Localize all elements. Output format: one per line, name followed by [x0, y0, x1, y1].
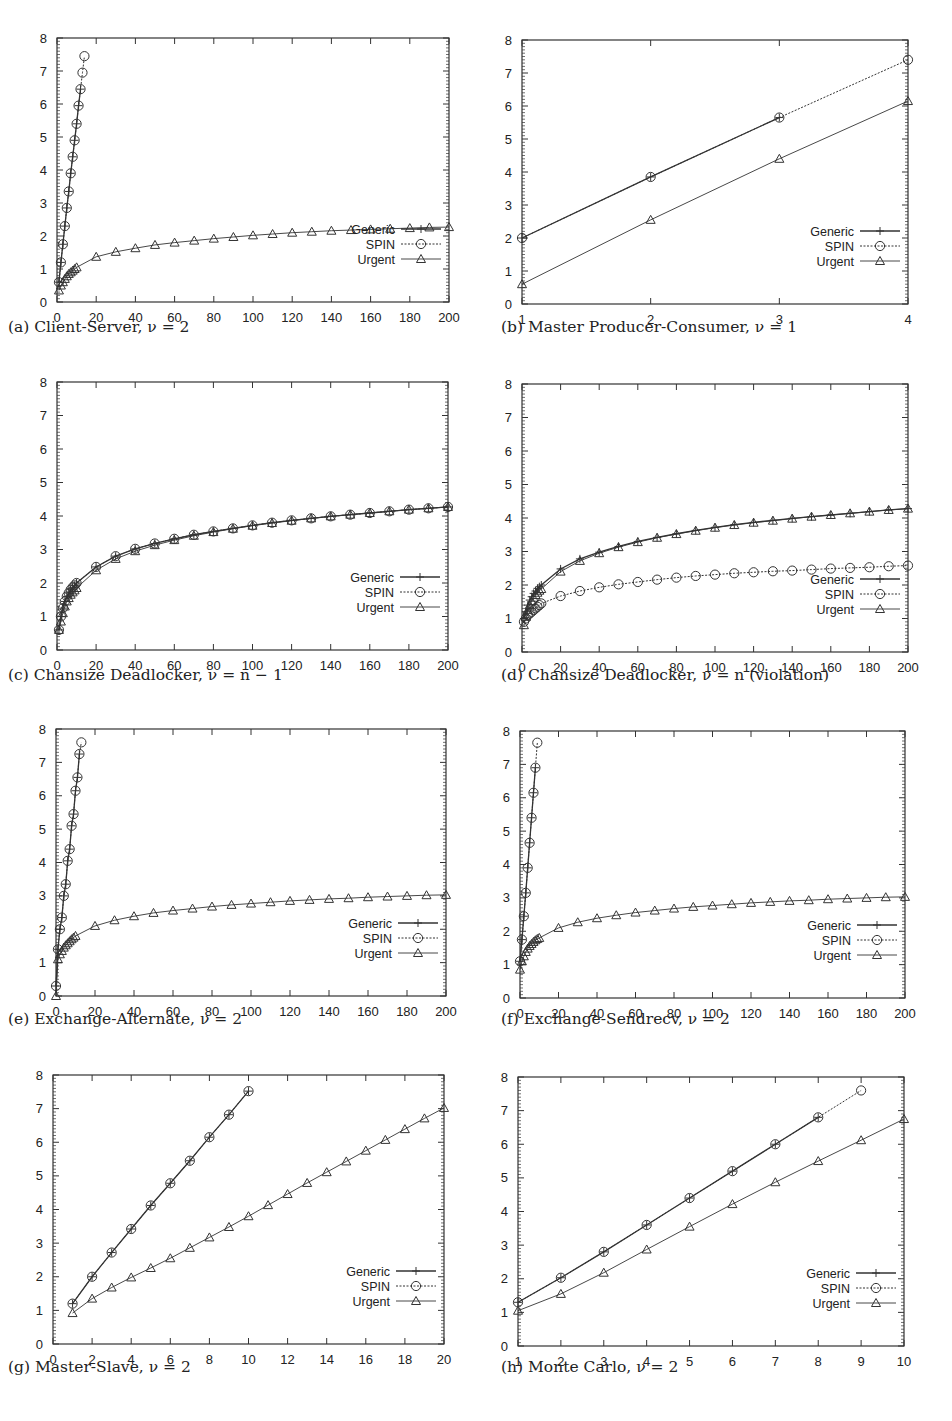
y-tick-label: 1: [40, 609, 47, 624]
y-tick-label: 8: [505, 377, 512, 392]
x-tick-label: 200: [894, 1006, 916, 1021]
chart-panel-f: 012345678020406080100120140160180200Gene…: [476, 720, 952, 1075]
y-tick-label: 6: [503, 790, 510, 805]
legend-label-urgent: Urgent: [357, 253, 395, 267]
x-tick-label: 120: [279, 1004, 301, 1019]
y-tick-label: 4: [40, 163, 47, 178]
legend: GenericSPINUrgent: [350, 571, 440, 615]
y-axis: 012345678: [505, 33, 908, 312]
legend-label-generic: Generic: [810, 225, 854, 239]
x-tick-label: 180: [859, 660, 881, 675]
y-axis: 012345678: [40, 375, 448, 658]
chart-panel-b: 0123456781234GenericSPINUrgent(b) Master…: [476, 0, 952, 355]
y-tick-label: 3: [501, 1238, 508, 1253]
legend: GenericSPINUrgent: [810, 225, 900, 269]
y-tick-label: 3: [505, 544, 512, 559]
x-tick-label: 180: [856, 1006, 878, 1021]
y-tick-label: 1: [39, 955, 46, 970]
chart-panel-c: 012345678020406080100120140160180200Gene…: [0, 360, 476, 715]
y-tick-label: 1: [505, 611, 512, 626]
legend-label-spin: SPIN: [825, 240, 854, 254]
y-tick-label: 5: [40, 130, 47, 145]
y-axis: 012345678: [40, 31, 449, 310]
y-axis: 012345678: [501, 1070, 904, 1354]
y-tick-label: 8: [501, 1070, 508, 1085]
x-tick-label: 5: [686, 1354, 693, 1369]
chart-panel-e: 012345678020406080100120140160180200Gene…: [0, 720, 476, 1075]
x-tick-label: 16: [359, 1352, 373, 1367]
legend-label-spin: SPIN: [361, 1280, 390, 1294]
legend-label-urgent: Urgent: [356, 601, 394, 615]
x-tick-label: 120: [740, 1006, 762, 1021]
x-tick-label: 140: [779, 1006, 801, 1021]
legend: GenericSPINUrgent: [810, 573, 900, 617]
y-tick-label: 8: [503, 724, 510, 739]
y-tick-label: 8: [40, 375, 47, 390]
legend: GenericSPINUrgent: [346, 1265, 436, 1309]
x-tick-label: 160: [360, 310, 382, 325]
y-tick-label: 3: [40, 542, 47, 557]
figure-caption: (h) Monte Carlo, ν = 2: [501, 1358, 678, 1376]
y-tick-label: 3: [39, 888, 46, 903]
figure-caption: (a) Client-Server, ν = 2: [8, 318, 189, 336]
figure-caption: (f) Exchange-Sendrecv, ν = 2: [501, 1010, 730, 1028]
figure-caption: (e) Exchange-Alternate, ν = 2: [8, 1010, 242, 1028]
series-urgent: [68, 1103, 448, 1316]
x-tick-label: 100: [240, 1004, 262, 1019]
y-tick-label: 8: [39, 722, 46, 737]
legend-label-spin: SPIN: [822, 934, 851, 948]
x-axis: 020406080100120140160180200: [516, 731, 915, 1021]
legend-label-spin: SPIN: [365, 586, 394, 600]
y-tick-label: 6: [505, 99, 512, 114]
y-axis: 012345678: [39, 722, 446, 1004]
series-spin: [517, 55, 912, 242]
y-tick-label: 5: [501, 1170, 508, 1185]
x-tick-label: 200: [438, 310, 460, 325]
y-axis: 012345678: [505, 377, 908, 660]
y-tick-label: 1: [503, 957, 510, 972]
chart-panel-d: 012345678020406080100120140160180200Gene…: [476, 360, 952, 715]
x-tick-label: 160: [357, 1004, 379, 1019]
x-tick-label: 140: [318, 1004, 340, 1019]
x-tick-label: 80: [207, 310, 221, 325]
y-tick-label: 4: [39, 855, 46, 870]
x-tick-label: 140: [321, 310, 343, 325]
x-tick-label: 14: [319, 1352, 333, 1367]
line-chart: 0123456781234GenericSPINUrgent: [476, 0, 952, 355]
x-tick-label: 6: [729, 1354, 736, 1369]
chart-panel-h: 01234567812345678910GenericSPINUrgent(h)…: [476, 1060, 952, 1415]
y-tick-label: 0: [503, 991, 510, 1006]
legend-label-generic: Generic: [350, 571, 394, 585]
figure-caption: (g) Master-Slave, ν = 2: [8, 1358, 191, 1376]
x-tick-label: 120: [281, 658, 303, 673]
legend-label-spin: SPIN: [366, 238, 395, 252]
y-tick-label: 6: [505, 444, 512, 459]
legend: GenericSPINUrgent: [351, 223, 441, 267]
y-tick-label: 5: [40, 475, 47, 490]
y-tick-label: 0: [505, 297, 512, 312]
y-tick-label: 5: [505, 477, 512, 492]
y-tick-label: 2: [39, 922, 46, 937]
y-tick-label: 3: [40, 196, 47, 211]
figure-caption: (c) Chansize Deadlocker, ν = n − 1: [8, 666, 283, 684]
y-tick-label: 3: [36, 1236, 43, 1251]
y-tick-label: 2: [36, 1269, 43, 1284]
legend-label-generic: Generic: [346, 1265, 390, 1279]
y-tick-label: 3: [505, 198, 512, 213]
y-tick-label: 1: [501, 1305, 508, 1320]
legend: GenericSPINUrgent: [807, 919, 897, 963]
y-tick-label: 4: [40, 509, 47, 524]
y-tick-label: 2: [501, 1271, 508, 1286]
x-axis: 1234: [518, 40, 911, 327]
x-tick-label: 20: [437, 1352, 451, 1367]
line-chart: 012345678020406080100120140160180200Gene…: [0, 360, 476, 715]
x-tick-label: 120: [281, 310, 303, 325]
y-tick-label: 4: [505, 165, 512, 180]
y-axis: 012345678: [36, 1068, 444, 1352]
legend-label-generic: Generic: [351, 223, 395, 237]
line-chart: 012345678020406080100120140160180200Gene…: [476, 360, 952, 715]
x-tick-label: 180: [399, 310, 421, 325]
series-generic: [518, 114, 783, 242]
legend-label-urgent: Urgent: [354, 947, 392, 961]
legend-label-generic: Generic: [810, 573, 854, 587]
